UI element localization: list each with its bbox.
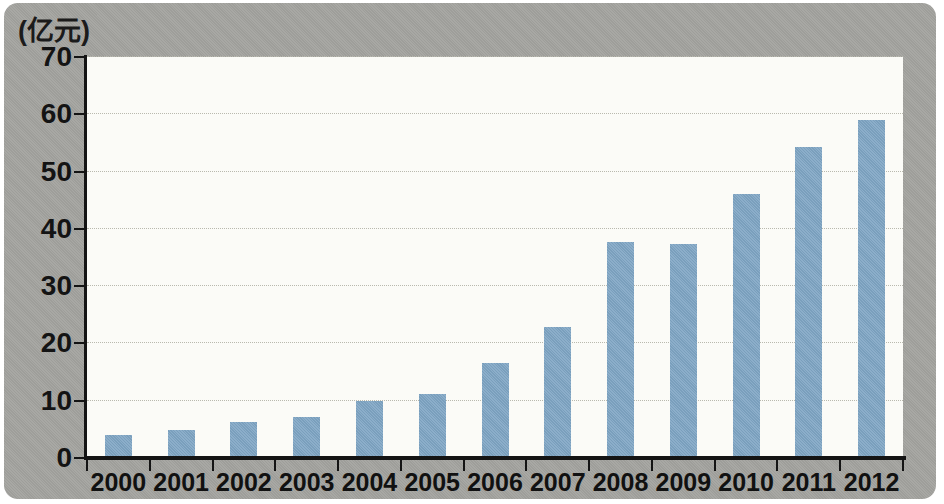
y-axis-tick <box>74 457 84 459</box>
bar-2001 <box>168 430 195 458</box>
gridline <box>87 113 903 114</box>
y-axis-tick <box>74 400 84 402</box>
bar-2008 <box>607 242 634 458</box>
bar-2005 <box>419 394 446 458</box>
bar-2011 <box>795 147 822 458</box>
bar-2012 <box>858 120 885 458</box>
gridline <box>87 56 903 57</box>
bar-2002 <box>230 422 257 458</box>
y-axis-tick-label: 60 <box>0 100 72 128</box>
gridline <box>87 285 903 286</box>
gridline <box>87 171 903 172</box>
y-axis-tick-label: 40 <box>0 215 72 243</box>
y-axis-tick-label: 20 <box>0 329 72 357</box>
gridline <box>87 342 903 343</box>
bar-2007 <box>544 327 571 458</box>
bar-chart: (亿元) 010203040506070 2000200120022003200… <box>0 0 944 504</box>
y-axis-tick-label: 10 <box>0 387 72 415</box>
y-axis-tick-label: 70 <box>0 43 72 71</box>
y-axis-tick <box>74 228 84 230</box>
gridline <box>87 228 903 229</box>
x-axis-line <box>84 456 906 460</box>
bar-2010 <box>733 194 760 458</box>
y-axis-tick <box>74 113 84 115</box>
bar-2006 <box>482 363 509 458</box>
bar-2003 <box>293 417 320 458</box>
y-axis-tick-label: 30 <box>0 272 72 300</box>
y-axis-tick-label: 50 <box>0 158 72 186</box>
y-axis-tick <box>74 342 84 344</box>
y-axis-tick <box>74 171 84 173</box>
bar-2004 <box>356 401 383 458</box>
y-axis-line <box>84 55 87 460</box>
x-axis-label-2012: 2012 <box>829 470 915 495</box>
y-axis-tick <box>74 285 84 287</box>
y-axis-tick-label: 0 <box>0 444 72 472</box>
bar-2000 <box>105 435 132 458</box>
y-axis-tick <box>74 56 84 58</box>
bar-2009 <box>670 244 697 458</box>
